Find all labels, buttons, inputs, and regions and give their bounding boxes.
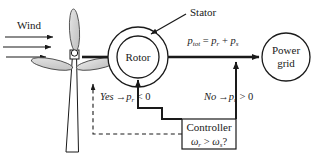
turbine-hub bbox=[71, 50, 77, 56]
ptot-plus-sign: + bbox=[219, 35, 230, 46]
wind-label: Wind bbox=[17, 19, 41, 31]
omega-r-symbol: ω bbox=[191, 136, 198, 147]
rotor-label: Rotor bbox=[125, 51, 150, 63]
ptot-equation-label: ptot = pr + ps bbox=[187, 35, 239, 48]
yes-arrow-icon: → bbox=[116, 91, 127, 102]
wind-arrows-group bbox=[3, 37, 53, 57]
turbine-blade-top bbox=[68, 9, 80, 51]
omega-gt-operator: > bbox=[201, 136, 212, 147]
yes-branch-label: Yes→pr < 0 bbox=[100, 91, 151, 104]
stator-label: Stator bbox=[190, 6, 217, 18]
no-relation: > 0 bbox=[237, 91, 253, 102]
controller-label-line1: Controller bbox=[186, 121, 232, 133]
power-grid-label-line1: Power bbox=[272, 44, 300, 56]
wind-turbine-icon bbox=[30, 9, 118, 152]
stator-leader-line-icon bbox=[151, 14, 186, 34]
ptot-ps-subscript: s bbox=[236, 40, 239, 48]
turbine-blade-left bbox=[30, 55, 73, 73]
yes-relation: < 0 bbox=[134, 91, 150, 102]
no-arrow-icon: → bbox=[218, 91, 229, 102]
power-grid-label-line2: grid bbox=[277, 57, 295, 69]
omega-question-mark: ? bbox=[222, 136, 227, 147]
wind-turbine-power-flow-diagram: Wind Stator Rotor Power grid Controller … bbox=[0, 0, 319, 158]
omega-s-symbol: ω bbox=[212, 136, 219, 147]
diagram-canvas: Wind Stator Rotor Power grid Controller … bbox=[0, 0, 319, 158]
no-text: No bbox=[203, 91, 216, 102]
no-branch-label: No→pr > 0 bbox=[203, 91, 253, 104]
ptot-equals-sign: = bbox=[200, 35, 211, 46]
yes-text: Yes bbox=[100, 91, 114, 102]
